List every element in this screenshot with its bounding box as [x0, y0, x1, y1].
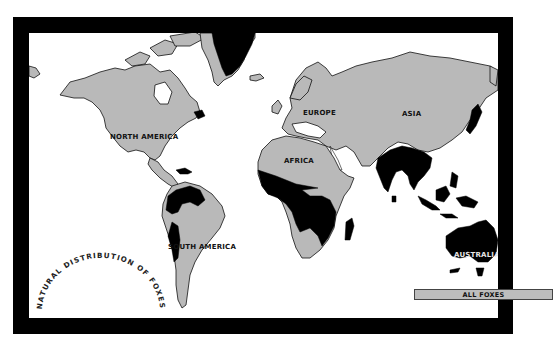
svg-text:NATURAL DISTRIBUTION OF FOXES: NATURAL DISTRIBUTION OF FOXES [35, 251, 167, 310]
legend-label: ALL FOXES [462, 291, 504, 299]
legend-all-foxes: ALL FOXES [414, 289, 553, 300]
map-title-text: NATURAL DISTRIBUTION OF FOXES [35, 251, 167, 310]
